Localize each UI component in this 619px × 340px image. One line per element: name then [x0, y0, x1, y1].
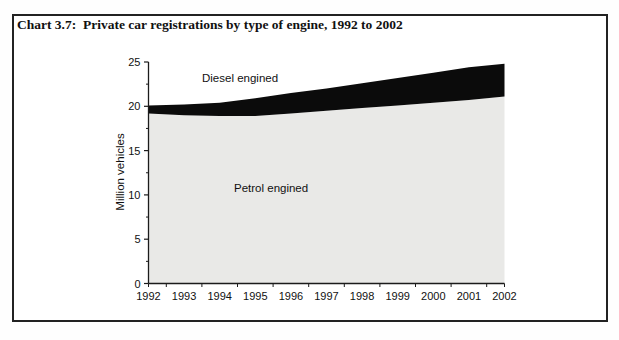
y-tick-label: 15	[128, 145, 140, 157]
y-tick-label: 10	[128, 189, 140, 201]
diesel-series-label: Diesel engined	[202, 72, 278, 84]
scanned-chart-page: Chart 3.7: Private car registrations by …	[0, 0, 619, 340]
x-tick-label: 1996	[279, 290, 303, 302]
x-tick-label: 1992	[136, 290, 160, 302]
x-tick-label: 2001	[457, 290, 481, 302]
x-tick-label: 2000	[421, 290, 445, 302]
x-tick-label: 1995	[243, 290, 267, 302]
y-tick-label: 25	[128, 56, 140, 68]
y-tick-label: 5	[134, 233, 140, 245]
x-tick-label: 1999	[385, 290, 409, 302]
x-tick-label: 1994	[207, 290, 231, 302]
x-tick-label: 1998	[350, 290, 374, 302]
petrol-series-label: Petrol engined	[234, 182, 308, 194]
x-tick-label: 1997	[314, 290, 338, 302]
x-tick-label: 1993	[172, 290, 196, 302]
y-axis-title: Million vehicles	[114, 117, 128, 227]
x-tick-label: 2002	[492, 290, 516, 302]
petrol-area	[149, 97, 505, 284]
y-tick-label: 0	[134, 278, 140, 290]
y-tick-label: 20	[128, 100, 140, 112]
area-chart: 0510152025199219931994199519961997199819…	[0, 0, 619, 340]
